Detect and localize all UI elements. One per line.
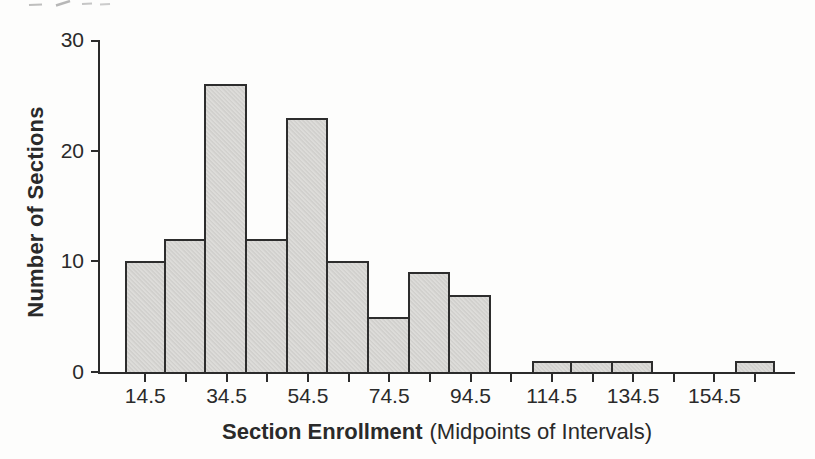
y-tick-label-30: 30 bbox=[38, 29, 84, 50]
x-tick-label-114.5: 114.5 bbox=[526, 385, 577, 406]
x-axis-title-main: Section Enrollment bbox=[222, 419, 422, 444]
x-tick-84.5 bbox=[429, 374, 431, 382]
bar-74.5 bbox=[367, 317, 410, 372]
bar-164.5 bbox=[735, 361, 776, 372]
x-tick-74.5 bbox=[388, 374, 390, 382]
x-tick-144.5 bbox=[673, 374, 675, 382]
x-tick-64.5 bbox=[348, 374, 350, 382]
x-tick-label-34.5: 34.5 bbox=[206, 385, 247, 406]
x-tick-104.5 bbox=[510, 374, 512, 382]
x-axis-title-note: (Midpoints of Intervals) bbox=[429, 419, 652, 444]
bar-14.5 bbox=[125, 261, 166, 372]
x-tick-134.5 bbox=[632, 374, 634, 382]
x-tick-124.5 bbox=[592, 374, 594, 382]
y-tick-30 bbox=[91, 40, 98, 42]
x-tick-label-14.5: 14.5 bbox=[125, 385, 166, 406]
x-tick-154.5 bbox=[713, 374, 715, 382]
x-tick-34.5 bbox=[226, 374, 228, 382]
cropped-text-artifact bbox=[26, 0, 116, 8]
bar-134.5 bbox=[611, 361, 654, 372]
bar-64.5 bbox=[326, 261, 369, 372]
bar-124.5 bbox=[570, 361, 613, 372]
x-tick-label-54.5: 54.5 bbox=[287, 385, 328, 406]
x-tick-24.5 bbox=[185, 374, 187, 382]
bar-34.5 bbox=[204, 84, 247, 372]
y-tick-0 bbox=[91, 371, 98, 373]
bar-94.5 bbox=[448, 295, 491, 373]
y-tick-label-20: 20 bbox=[38, 140, 84, 161]
bar-44.5 bbox=[245, 239, 288, 372]
bar-114.5 bbox=[532, 361, 573, 372]
plot-area: 14.534.554.574.594.5114.5134.5154.501020… bbox=[98, 40, 795, 374]
x-tick-164.5 bbox=[754, 374, 756, 382]
x-axis-title: Section Enrollment(Midpoints of Interval… bbox=[222, 419, 652, 445]
y-tick-label-0: 0 bbox=[38, 361, 84, 382]
y-tick-20 bbox=[91, 150, 98, 152]
x-tick-114.5 bbox=[551, 374, 553, 382]
x-tick-label-134.5: 134.5 bbox=[607, 385, 660, 406]
y-axis-title: Number of Sections bbox=[23, 106, 49, 317]
histogram-figure: Number of Sections 14.534.554.574.594.51… bbox=[0, 0, 815, 459]
bar-54.5 bbox=[286, 118, 329, 373]
y-tick-10 bbox=[91, 260, 98, 262]
x-tick-54.5 bbox=[307, 374, 309, 382]
x-tick-14.5 bbox=[144, 374, 146, 382]
y-tick-label-10: 10 bbox=[38, 250, 84, 271]
x-tick-label-154.5: 154.5 bbox=[688, 385, 741, 406]
x-tick-94.5 bbox=[470, 374, 472, 382]
x-tick-label-94.5: 94.5 bbox=[450, 385, 491, 406]
x-tick-44.5 bbox=[266, 374, 268, 382]
bar-84.5 bbox=[408, 272, 451, 372]
bar-24.5 bbox=[164, 239, 207, 372]
x-tick-label-74.5: 74.5 bbox=[369, 385, 410, 406]
